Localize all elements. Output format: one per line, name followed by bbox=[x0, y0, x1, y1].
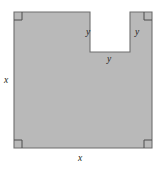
dimension-label-y-notch-bottom: y bbox=[107, 55, 111, 65]
geometry-figure: x x y y y bbox=[0, 0, 164, 170]
dimension-label-y-notch-right: y bbox=[135, 28, 139, 38]
dimension-label-x-bottom: x bbox=[78, 154, 82, 164]
notched-square-shape bbox=[14, 12, 152, 148]
dimension-label-x-left: x bbox=[4, 76, 8, 86]
figure-canvas bbox=[0, 0, 164, 170]
dimension-label-y-notch-left: y bbox=[86, 28, 90, 38]
